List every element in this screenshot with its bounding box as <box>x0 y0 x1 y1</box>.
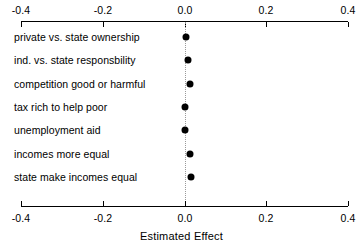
axis-tick-label: 0.2 <box>259 213 274 224</box>
x-axis-title: Estimated Effect <box>0 230 363 242</box>
axis-tick <box>21 22 22 27</box>
data-point <box>183 34 190 41</box>
axis-tick <box>348 201 349 206</box>
axis-tick-label: 0.2 <box>259 5 274 16</box>
axis-tick <box>185 22 186 27</box>
axis-tick-label: 0.4 <box>341 5 356 16</box>
category-label: private vs. state ownership <box>14 31 140 43</box>
axis-tick-label: -0.4 <box>12 213 31 224</box>
category-label: competition good or harmful <box>14 78 146 90</box>
axis-tick <box>266 201 267 206</box>
axis-tick <box>103 22 104 27</box>
axis-tick <box>348 22 349 27</box>
data-point <box>184 57 191 64</box>
category-label: tax rich to help poor <box>14 101 107 113</box>
category-label: state make incomes equal <box>14 171 137 183</box>
axis-rule <box>21 206 348 207</box>
axis-tick-label: -0.2 <box>94 5 113 16</box>
axis-tick-label: 0.0 <box>178 213 193 224</box>
axis-tick <box>266 22 267 27</box>
axis-tick <box>21 201 22 206</box>
axis-tick <box>103 201 104 206</box>
data-point <box>181 127 188 134</box>
category-label: incomes more equal <box>14 148 109 160</box>
data-point <box>188 173 195 180</box>
axis-tick <box>185 201 186 206</box>
axis-tick-label: 0.0 <box>178 5 193 16</box>
coefficient-dot-plot: -0.4-0.20.00.20.4 private vs. state owne… <box>0 0 363 249</box>
data-point <box>186 150 193 157</box>
axis-tick-label: -0.4 <box>12 5 31 16</box>
category-label: ind. vs. state responsbility <box>14 54 136 66</box>
data-point <box>187 80 194 87</box>
axis-tick-label: 0.4 <box>341 213 356 224</box>
category-label: unemployment aid <box>14 124 101 136</box>
data-point <box>181 103 188 110</box>
axis-tick-label: -0.2 <box>94 213 113 224</box>
zero-reference-line <box>185 22 187 206</box>
